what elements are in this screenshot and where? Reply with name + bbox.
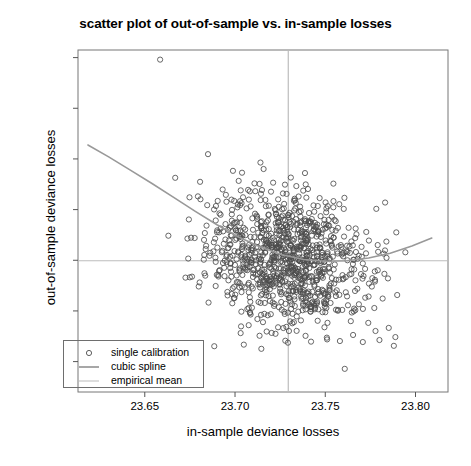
light-line-icon <box>76 374 102 388</box>
legend-item-single-calibration: single calibration <box>64 346 203 360</box>
x-tick-label: 23.75 <box>295 400 355 412</box>
scatter-plot-figure: scatter plot of out-of-sample vs. in-sam… <box>0 0 471 466</box>
legend-item-label: empirical mean <box>111 374 182 386</box>
x-tick-label: 23.80 <box>386 400 446 412</box>
x-tick-label: 23.70 <box>205 400 265 412</box>
x-tick-label: 23.65 <box>115 400 175 412</box>
open-circle-icon <box>76 346 102 360</box>
legend-item-label: single calibration <box>111 346 189 358</box>
legend-item-cubic-spline: cubic spline <box>64 360 203 374</box>
legend-item-label: cubic spline <box>111 360 166 372</box>
plot-canvas <box>0 0 471 466</box>
legend: single calibration cubic spline empirica… <box>63 340 204 388</box>
solid-line-icon <box>76 360 102 374</box>
scatter-points-group <box>158 57 408 371</box>
legend-item-empirical-mean: empirical mean <box>64 374 203 388</box>
